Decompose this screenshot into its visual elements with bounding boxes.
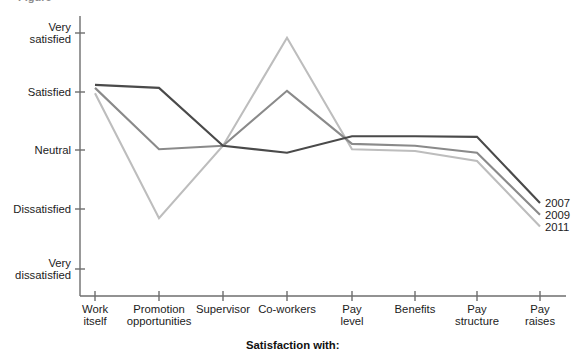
y-axis-label-line1: Very [0,21,71,33]
y-axis-label-line1: Very [0,257,71,269]
x-axis-label-line2: opportunities [116,315,202,327]
y-axis-label-4: Verydissatisfied [0,257,71,282]
y-axis-label-line2: satisfied [0,33,71,45]
legend-item-2007: 2007 [545,197,570,209]
series-line-2011 [95,38,540,227]
y-axis-label-3: Dissatisfied [0,203,71,215]
y-axis-label-0: Verysatisfied [0,21,71,46]
x-axis-label-line2: raises [497,315,572,327]
legend-item-2009: 2009 [545,209,570,221]
x-axis-label-7: Payraises [497,303,572,328]
y-axis-label-line1: Neutral [0,144,71,156]
legend-item-2011: 2011 [545,221,569,233]
y-axis-label-1: Satisfied [0,86,71,98]
series-line-2009 [95,88,540,215]
x-axis-label-line1: Pay [497,303,572,315]
y-axis-label-line1: Dissatisfied [0,203,71,215]
y-axis-label-line1: Satisfied [0,86,71,98]
axes [75,16,566,301]
series-line-2007 [95,85,540,203]
chart-figure: Figure VerysatisfiedSatisfiedNeutralDiss… [0,0,572,356]
y-axis-label-line2: dissatisfied [0,269,71,281]
x-axis-label-line2: level [309,315,395,327]
y-axis-label-2: Neutral [0,144,71,156]
x-axis-title: Satisfaction with: [246,339,340,351]
